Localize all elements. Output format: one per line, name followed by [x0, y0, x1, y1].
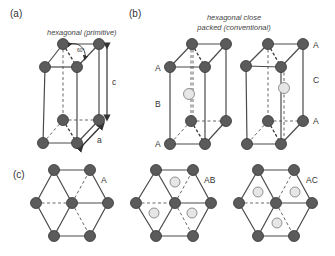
layer-label: A: [313, 40, 319, 50]
panel-b-caption-line1: hexagonal close: [207, 13, 261, 22]
layer-label: A: [313, 116, 319, 126]
axis-a-label: a: [97, 135, 102, 145]
b-layer-atom: [184, 89, 195, 100]
angle-label: 60°: [77, 47, 85, 53]
atom: [72, 62, 83, 73]
panel-b-label: (b): [129, 8, 141, 19]
panel-a-primitive-cell: (a) hexagonal (primitive) 60° c a: [10, 8, 117, 149]
atom: [72, 138, 83, 149]
view-label: AB: [204, 175, 216, 185]
atom: [40, 62, 51, 73]
hex-view-a: A: [31, 165, 114, 242]
layer-label: C: [313, 75, 319, 85]
panel-b-caption-line2: packed (conventional): [196, 23, 271, 32]
layer-label: A: [155, 139, 161, 149]
hcp-cell-ac: A C A: [241, 39, 320, 150]
hex-view-ac: AC: [234, 165, 318, 242]
layer-label: B: [155, 99, 161, 109]
atom: [58, 39, 69, 50]
c-layer-atom: [279, 83, 290, 94]
axis-c-label: c: [112, 77, 117, 87]
panel-a-label: (a): [10, 8, 22, 19]
panel-c-label: (c): [13, 169, 25, 180]
atom: [58, 115, 69, 126]
atom: [38, 138, 49, 149]
layer-label: A: [155, 63, 161, 73]
atom: [94, 39, 105, 50]
hcp-diagram: (a) hexagonal (primitive) 60° c a: [0, 0, 335, 256]
panel-a-caption: hexagonal (primitive): [47, 28, 117, 37]
view-label: A: [101, 175, 107, 185]
atom: [94, 115, 105, 126]
hcp-cell-ab: A B A: [155, 39, 232, 150]
hex-view-ab: AB: [131, 165, 217, 242]
view-label: AC: [306, 175, 318, 185]
